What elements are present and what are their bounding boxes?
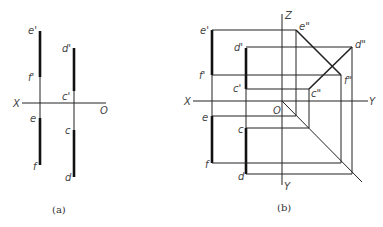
caption-b: (b) (277, 202, 291, 213)
label-d: d (238, 171, 245, 182)
label-e: e (202, 112, 208, 123)
label-origin: O (273, 105, 281, 116)
label-y-axis-down: Y (284, 181, 291, 192)
panel-a: e' f' d' c' X O e f c d (a) (12, 25, 108, 215)
label-e: e (30, 113, 36, 124)
label-f: f (205, 159, 210, 170)
line-e-dprime-f-dprime (296, 30, 341, 75)
label-f: f (33, 161, 38, 172)
orthographic-projection-diagram: e' f' d' c' X O e f c d (a) (0, 0, 383, 227)
label-x-axis: X (183, 96, 192, 107)
label-d-prime: d' (234, 42, 243, 53)
label-c-dprime: c" (311, 88, 321, 99)
label-f-dprime: f" (344, 75, 352, 86)
label-e-prime: e' (200, 25, 209, 36)
caption-a: (a) (52, 204, 66, 215)
label-d-dprime: d" (355, 39, 366, 50)
45-degree-line (282, 101, 362, 182)
label-e-dprime: e" (299, 21, 310, 32)
label-c-prime: c' (62, 91, 70, 102)
label-origin: O (100, 105, 108, 116)
label-e-prime: e' (28, 25, 37, 36)
label-d-prime: d' (62, 43, 71, 54)
label-x-axis: X (12, 98, 21, 109)
label-y-axis-right: Y (369, 96, 376, 107)
label-c: c (65, 125, 71, 136)
label-f-prime: f' (199, 70, 205, 81)
label-c: c (238, 124, 244, 135)
label-d: d (65, 172, 72, 183)
label-c-prime: c' (233, 83, 241, 94)
panel-b: e' d' f' c' Z e" d" f" c" X Y O e c f d … (183, 10, 376, 213)
label-f-prime: f' (28, 72, 34, 83)
label-z-axis: Z (284, 10, 293, 21)
